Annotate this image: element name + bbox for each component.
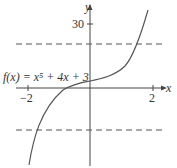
function-graph: y x 30 −2 2 f(x) = x⁵ + 4x + 3 [0, 0, 177, 168]
y-axis-label: y [84, 0, 91, 14]
x-tick-label-neg2: −2 [20, 91, 33, 105]
function-label: f(x) = x⁵ + 4x + 3 [3, 70, 89, 84]
x-axis-label: x [165, 81, 172, 95]
y-tick-label-30: 30 [72, 17, 84, 31]
x-tick-label-2: 2 [149, 91, 155, 105]
